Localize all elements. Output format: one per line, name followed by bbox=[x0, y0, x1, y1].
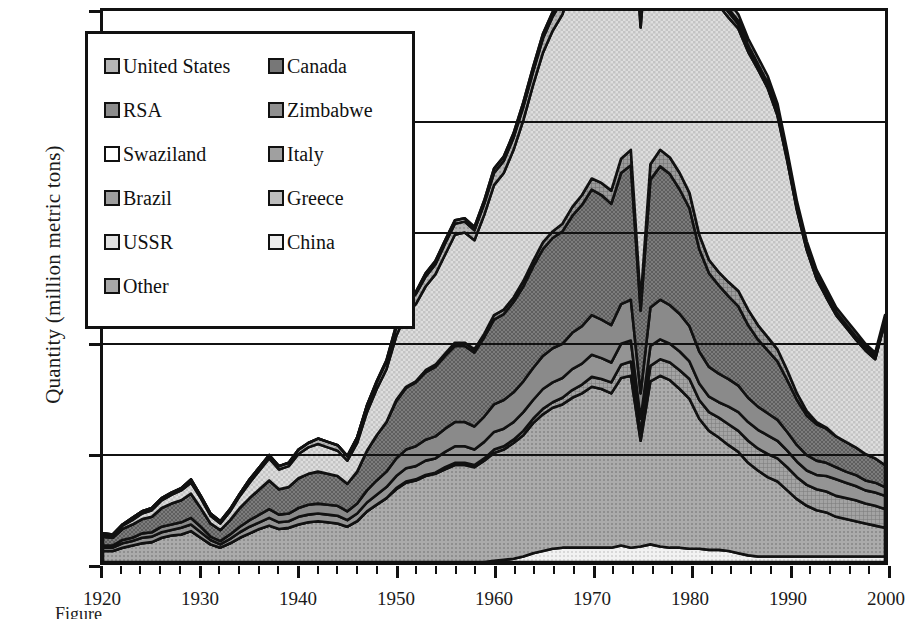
legend-label-united-states: United States bbox=[123, 56, 230, 76]
legend-swatch-rsa bbox=[104, 102, 120, 118]
x-tick-minor-1984 bbox=[730, 566, 732, 574]
legend-label-canada: Canada bbox=[287, 56, 347, 76]
x-tick-minor-1992 bbox=[809, 566, 811, 574]
legend-swatch-italy bbox=[268, 146, 284, 162]
x-tick-minor-1946 bbox=[356, 566, 358, 574]
x-tick-minor-1944 bbox=[336, 566, 338, 574]
legend-column-b: Canada Zimbabwe Italy Greece China bbox=[268, 44, 373, 264]
x-tick-major-1950 bbox=[396, 566, 399, 578]
x-tick-minor-1966 bbox=[553, 566, 555, 574]
x-tick-minor-1988 bbox=[770, 566, 772, 574]
legend-item-swaziland[interactable]: Swaziland bbox=[104, 132, 230, 176]
x-tick-minor-1926 bbox=[159, 566, 161, 574]
y-tick-mark-1 bbox=[89, 454, 100, 457]
legend-label-other: Other bbox=[123, 276, 169, 296]
x-tick-minor-1974 bbox=[632, 566, 634, 574]
gridline-2 bbox=[103, 343, 885, 345]
x-tick-minor-1996 bbox=[849, 566, 851, 574]
legend-label-rsa: RSA bbox=[123, 100, 162, 120]
legend-swatch-china bbox=[268, 234, 284, 250]
x-tick-major-1930 bbox=[199, 566, 202, 578]
x-tick-minor-1928 bbox=[179, 566, 181, 574]
x-tick-minor-1958 bbox=[474, 566, 476, 574]
x-tick-label-1970: 1970 bbox=[552, 588, 632, 610]
x-tick-minor-1932 bbox=[218, 566, 220, 574]
x-tick-minor-1924 bbox=[139, 566, 141, 574]
x-tick-minor-1938 bbox=[277, 566, 279, 574]
x-tick-major-1940 bbox=[297, 566, 300, 578]
x-tick-label-1960: 1960 bbox=[454, 588, 534, 610]
x-tick-label-1990: 1990 bbox=[748, 588, 828, 610]
legend-item-ussr[interactable]: USSR bbox=[104, 220, 230, 264]
figure-caption: Figure bbox=[55, 604, 102, 619]
x-tick-label-1980: 1980 bbox=[650, 588, 730, 610]
legend-label-zimbabwe: Zimbabwe bbox=[287, 100, 373, 120]
legend-label-greece: Greece bbox=[287, 188, 344, 208]
x-tick-minor-1934 bbox=[238, 566, 240, 574]
x-tick-minor-1936 bbox=[258, 566, 260, 574]
legend-swatch-brazil bbox=[104, 190, 120, 206]
x-tick-minor-1982 bbox=[711, 566, 713, 574]
x-tick-label-2000: 2000 bbox=[846, 588, 909, 610]
legend-swatch-zimbabwe bbox=[268, 102, 284, 118]
legend-swatch-canada bbox=[268, 58, 284, 74]
x-tick-major-1980 bbox=[691, 566, 694, 578]
x-tick-label-1940: 1940 bbox=[258, 588, 338, 610]
x-tick-minor-1952 bbox=[415, 566, 417, 574]
x-tick-label-1950: 1950 bbox=[356, 588, 436, 610]
legend-item-greece[interactable]: Greece bbox=[268, 176, 373, 220]
x-tick-minor-1962 bbox=[514, 566, 516, 574]
legend-item-zimbabwe[interactable]: Zimbabwe bbox=[268, 88, 373, 132]
x-tick-minor-1922 bbox=[120, 566, 122, 574]
legend-label-ussr: USSR bbox=[123, 232, 173, 252]
x-tick-minor-1948 bbox=[376, 566, 378, 574]
legend-label-brazil: Brazil bbox=[123, 188, 172, 208]
legend-swatch-swaziland bbox=[104, 146, 120, 162]
chart-legend: United States RSA Swaziland Brazil USSR … bbox=[85, 31, 415, 329]
x-tick-minor-1986 bbox=[750, 566, 752, 574]
x-tick-minor-1954 bbox=[435, 566, 437, 574]
x-tick-minor-1976 bbox=[652, 566, 654, 574]
legend-item-brazil[interactable]: Brazil bbox=[104, 176, 230, 220]
legend-label-swaziland: Swaziland bbox=[123, 144, 206, 164]
gridline-1 bbox=[103, 454, 885, 456]
legend-item-other[interactable]: Other bbox=[104, 264, 230, 308]
legend-item-italy[interactable]: Italy bbox=[268, 132, 373, 176]
legend-item-china[interactable]: China bbox=[268, 220, 373, 264]
legend-item-united-states[interactable]: United States bbox=[104, 44, 230, 88]
y-tick-mark-5 bbox=[89, 10, 100, 13]
x-tick-minor-1964 bbox=[533, 566, 535, 574]
y-tick-mark-2 bbox=[89, 343, 100, 346]
legend-swatch-greece bbox=[268, 190, 284, 206]
legend-swatch-other bbox=[104, 278, 120, 294]
legend-label-china: China bbox=[287, 232, 335, 252]
legend-swatch-united-states bbox=[104, 58, 120, 74]
x-tick-major-1990 bbox=[790, 566, 793, 578]
y-tick-mark-0 bbox=[89, 565, 100, 568]
legend-item-canada[interactable]: Canada bbox=[268, 44, 373, 88]
x-tick-minor-1942 bbox=[317, 566, 319, 574]
x-tick-minor-1956 bbox=[455, 566, 457, 574]
legend-item-rsa[interactable]: RSA bbox=[104, 88, 230, 132]
x-tick-minor-1972 bbox=[612, 566, 614, 574]
x-tick-minor-1978 bbox=[671, 566, 673, 574]
x-tick-major-1920 bbox=[100, 566, 103, 578]
legend-swatch-ussr bbox=[104, 234, 120, 250]
x-tick-major-1960 bbox=[494, 566, 497, 578]
x-tick-minor-1998 bbox=[868, 566, 870, 574]
x-tick-minor-1994 bbox=[829, 566, 831, 574]
legend-label-italy: Italy bbox=[287, 144, 324, 164]
x-tick-minor-1968 bbox=[573, 566, 575, 574]
x-tick-major-2000 bbox=[888, 566, 891, 578]
x-tick-major-1970 bbox=[593, 566, 596, 578]
x-tick-label-1930: 1930 bbox=[160, 588, 240, 610]
legend-column-a: United States RSA Swaziland Brazil USSR … bbox=[104, 44, 230, 308]
y-axis-title: Quantity (million metric tons) bbox=[41, 40, 66, 510]
